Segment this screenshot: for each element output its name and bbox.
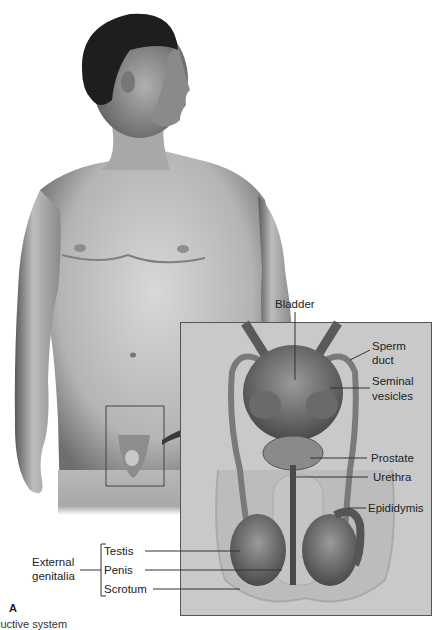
label-external-line1: External — [32, 556, 74, 569]
label-seminal-line2: vesicles — [372, 390, 413, 403]
label-epididymis: Epididymis — [368, 502, 424, 515]
label-sperm-duct-line1: Sperm — [372, 340, 406, 353]
prostate — [263, 436, 323, 470]
left-ureter — [245, 323, 265, 355]
right-testis — [302, 514, 358, 586]
label-external-line2: genitalia — [32, 570, 75, 583]
label-penis: Penis — [104, 564, 133, 577]
label-testis: Testis — [104, 545, 133, 558]
left-seminal-vesicle — [249, 391, 281, 419]
urethra — [290, 465, 296, 585]
label-urethra: Urethra — [373, 471, 411, 484]
label-seminal-line1: Seminal — [372, 375, 414, 388]
left-testis — [230, 514, 286, 586]
panel-letter: A — [9, 602, 17, 614]
right-seminal-vesicle — [306, 391, 338, 419]
label-bladder: Bladder — [275, 298, 315, 311]
label-prostate: Prostate — [371, 452, 414, 465]
figure-caption: luctive system — [0, 618, 67, 630]
right-ureter — [318, 323, 338, 355]
label-scrotum: Scrotum — [104, 583, 147, 596]
label-sperm-duct-line2: duct — [372, 354, 394, 367]
